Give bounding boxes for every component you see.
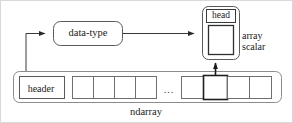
ndarray-cells-left [73,77,157,99]
ndarray-cell [228,77,250,99]
header-label: header [21,84,61,94]
array-scalar-caption-line1: array [242,30,265,41]
head-label: head [207,11,235,21]
ndarray-diagram: data-type head header ndarray ... array … [0,0,293,123]
scalar-value-box [209,26,234,55]
array-scalar-caption-line2: scalar [242,41,265,52]
connector-header-to-data-type [26,34,45,72]
ndarray-cell [136,77,157,99]
array-scalar-caption: array scalar [242,30,265,52]
ndarray-cell [94,77,115,99]
ndarray-cell [115,77,136,99]
ndarray-cell [182,77,204,99]
ndarray-cell [250,77,272,99]
ellipsis-label: ... [161,85,177,95]
data-type-label: data-type [61,28,115,39]
ndarray-cells-right [182,76,272,100]
ndarray-cell [73,77,94,99]
ndarray-label: ndarray [111,107,181,118]
ndarray-cell-highlighted [204,76,228,100]
diagram-canvas [1,1,293,123]
